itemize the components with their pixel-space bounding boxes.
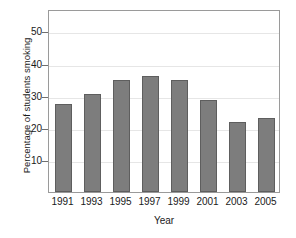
y-axis-tick-label: 40 [2,60,42,70]
bar [84,94,102,192]
x-axis-title: Year [48,215,280,226]
x-axis-tick-label: 1993 [77,196,106,207]
y-axis-tick-label: 10 [2,156,42,166]
x-axis-tick-label: 2003 [222,196,251,207]
bar [142,76,160,192]
bar [171,80,189,192]
x-axis-tick-label: 2001 [193,196,222,207]
bar [113,80,131,192]
y-axis-title: Percentage of students smoking [21,16,32,196]
bar [200,100,218,192]
plot-area [48,10,280,193]
x-axis-tick-label: 1991 [48,196,77,207]
x-axis-tick-label: 1999 [164,196,193,207]
x-axis-tick-label: 1995 [106,196,135,207]
bar [229,122,247,192]
y-axis-tick-label: 50 [2,27,42,37]
bar-chart-figure: Percentage of students smoking 102030405… [0,0,296,238]
bar [258,118,276,192]
y-axis-tick-label: 20 [2,124,42,134]
gridline [49,33,279,34]
gridline [49,66,279,67]
bar [55,104,73,192]
x-axis-tick-label: 1997 [135,196,164,207]
x-axis-tick-label: 2005 [251,196,280,207]
y-axis-tick-label: 30 [2,92,42,102]
